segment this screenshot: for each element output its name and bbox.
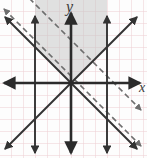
x-axis-label: x <box>139 81 145 95</box>
y-axis-label: y <box>66 0 73 15</box>
coordinate-graph: y x <box>0 0 147 158</box>
graph-canvas <box>0 0 147 158</box>
